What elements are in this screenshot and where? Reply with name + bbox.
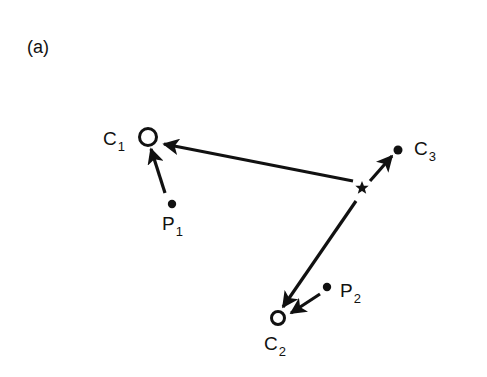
label-c2: C2: [264, 334, 286, 358]
label-c1: C1: [103, 129, 125, 153]
arrow-p1-to-c1: [151, 149, 165, 193]
label-c2-subscript: 2: [279, 344, 286, 359]
panel-label: (a): [27, 37, 49, 58]
label-p1-main: P: [162, 213, 175, 234]
star-icon: [355, 181, 368, 194]
label-p1-subscript: 1: [176, 224, 183, 239]
node-p1-dot: [168, 200, 176, 208]
label-c2-main: C: [264, 333, 278, 354]
label-c1-subscript: 1: [118, 139, 125, 154]
label-p2-subscript: 2: [354, 291, 361, 306]
arrow-star-to-c1: [164, 144, 353, 181]
node-c3-dot: [394, 146, 403, 155]
diagram-svg: [0, 0, 487, 377]
label-c3-subscript: 3: [429, 149, 436, 164]
arrow-star-to-c3: [370, 156, 392, 181]
label-c3: C3: [414, 139, 436, 163]
node-c1-open-circle: [140, 129, 157, 146]
arrow-p2-to-c2: [291, 294, 320, 313]
label-p2-main: P: [340, 280, 353, 301]
label-p1: P1: [162, 214, 183, 238]
label-c3-main: C: [414, 138, 428, 159]
diagram-canvas: (a) C1 C3 P1 P2 C2: [0, 0, 487, 377]
node-c2-open-circle: [272, 312, 285, 325]
label-p2: P2: [340, 281, 361, 305]
label-c1-main: C: [103, 128, 117, 149]
node-p2-dot: [323, 283, 331, 291]
